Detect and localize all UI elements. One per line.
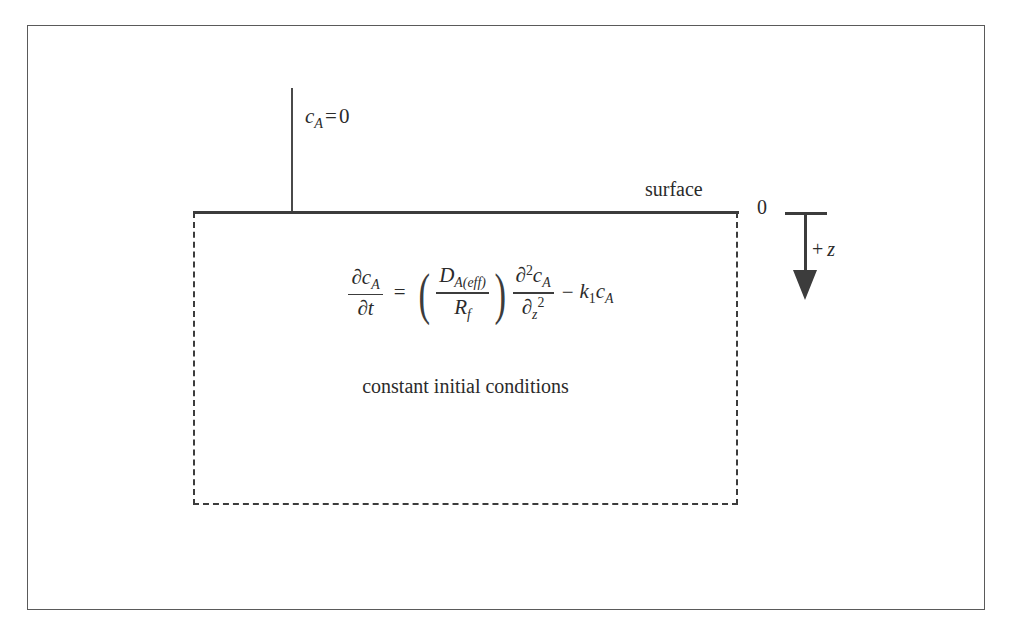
equation-minus-sign: − (556, 280, 580, 305)
coeff-num-variable: D (439, 263, 454, 287)
depth-axis-arrowhead-icon (793, 270, 817, 300)
initial-conditions-caption: constant initial conditions (193, 375, 738, 398)
diff-num-subscript: A (542, 275, 550, 290)
diff-num-order: 2 (526, 263, 533, 278)
coeff-den-subscript: f (467, 306, 471, 321)
coefficient-fraction: DA(eff) Rf (436, 262, 489, 323)
bc-variable: c (305, 104, 314, 128)
equation-equals-sign: = (385, 280, 415, 305)
lhs-den-variable: t (368, 296, 374, 320)
depth-axis-origin-label: 0 (757, 196, 767, 219)
diff-den-order: 2 (538, 295, 545, 310)
boundary-condition-label: cA=0 (305, 104, 349, 132)
depth-axis-plus-sign: + (812, 238, 823, 260)
coeff-num-subscript: A(eff) (454, 275, 486, 290)
coeff-den-variable: R (454, 295, 467, 319)
governing-equation: ∂cA ∂t = ( DA(eff) Rf ) ∂2cA ∂z2 − k1cA (300, 262, 660, 324)
bc-operator: = (323, 104, 339, 128)
first-order-decay-term: k1cA (579, 279, 613, 307)
second-derivative-numerator: ∂2cA (513, 262, 554, 292)
paren-open: ( (419, 274, 431, 314)
second-derivative-denominator: ∂z2 (519, 294, 548, 324)
depth-axis-variable: z (823, 238, 835, 260)
decay-concentration-variable: c (596, 279, 605, 303)
lhs-num-variable: c (362, 265, 371, 289)
bc-subscript: A (314, 115, 323, 131)
diff-num-variable: c (533, 263, 542, 287)
decay-concentration-subscript: A (605, 291, 613, 306)
boundary-condition-line (291, 88, 293, 213)
depth-axis-shaft (804, 213, 807, 275)
surface-label: surface (645, 178, 703, 201)
diagram-canvas: cA=0 surface 0 +z ∂cA ∂t = ( DA(eff) Rf … (0, 0, 1011, 639)
lhs-numerator: ∂cA (348, 264, 382, 294)
second-derivative-fraction: ∂2cA ∂z2 (513, 262, 554, 324)
rate-constant-variable: k (579, 279, 588, 303)
diff-den-partial: ∂ (522, 295, 532, 319)
lhs-denominator: ∂t (354, 295, 376, 322)
lhs-den-partial: ∂ (357, 296, 367, 320)
depth-axis-label: +z (812, 238, 835, 261)
bc-value: 0 (339, 104, 350, 128)
lhs-num-partial: ∂ (351, 265, 361, 289)
paren-close: ) (494, 274, 506, 314)
equation-coefficient-group: ( DA(eff) Rf ) (415, 262, 509, 323)
rate-constant-subscript: 1 (589, 291, 596, 306)
lhs-num-subscript: A (371, 277, 379, 292)
equation-lhs-fraction: ∂cA ∂t (348, 264, 382, 322)
coefficient-numerator: DA(eff) (436, 262, 489, 292)
soil-domain-dashed-box (193, 212, 738, 505)
diff-num-partial: ∂ (516, 263, 526, 287)
coefficient-denominator: Rf (451, 294, 474, 324)
